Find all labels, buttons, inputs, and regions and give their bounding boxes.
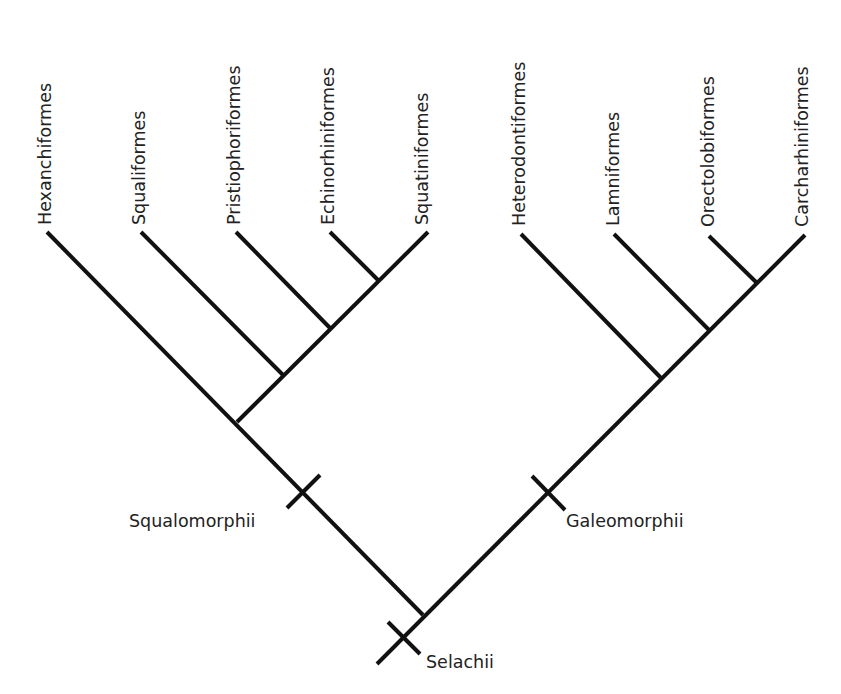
branch-heterodontiformes [521,234,662,379]
branch-squaliformes [141,232,284,376]
clade-label-squalomorphii: Squalomorphii [129,511,255,531]
branch-lamniformes [614,234,710,331]
taxon-label-lamniformes: Lamniformes [603,112,623,226]
branch-orectolobiformes [709,236,757,283]
branch-galeomorph-main [377,235,805,664]
clade-label-selachii: Selachii [426,652,494,672]
taxon-label-carcharhiniformes: Carcharhiniformes [792,66,812,227]
branch-pristiophoriformes [236,232,331,329]
taxon-label-heterodontiformes: Heterodontiformes [509,62,529,226]
taxon-label-pristiophoriformes: Pristiophoriformes [224,66,244,226]
galeomorphii-branches [377,234,805,664]
clade-labels: Squalomorphii Galeomorphii Selachii [129,511,684,672]
taxon-label-orectolobiformes: Orectolobiformes [698,76,718,227]
clade-label-galeomorphii: Galeomorphii [566,511,684,531]
taxon-labels: Hexanchiformes Squaliformes Pristiophori… [35,62,812,227]
taxon-label-echinorhiniformes: Echinorhiniformes [318,67,338,225]
squalomorphii-branches [47,232,428,615]
taxon-label-squaliformes: Squaliformes [129,111,149,225]
taxon-label-squatiniformes: Squatiniformes [412,93,432,225]
taxon-label-hexanchiformes: Hexanchiformes [35,83,55,225]
clade-ticks [287,475,565,654]
branch-hexanchiformes [47,232,423,615]
branch-echinorhiniformes [330,232,379,281]
cladogram: Hexanchiformes Squaliformes Pristiophori… [0,0,841,694]
